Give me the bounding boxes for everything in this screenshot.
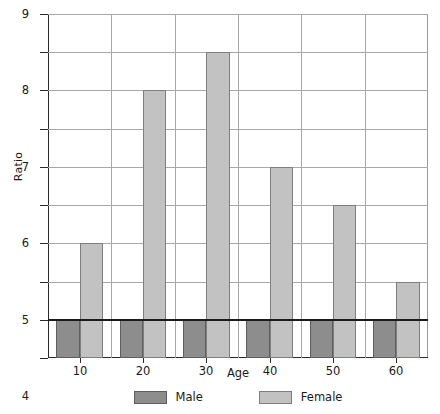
bar-female-age-30 [206, 52, 229, 358]
gridline-x-5 [365, 14, 366, 358]
reference-line-ratio-1 [48, 319, 428, 321]
y-tick-8: 8 [40, 52, 48, 53]
gridline-x-4 [301, 14, 302, 358]
bar-female-age-10 [80, 243, 103, 358]
y-tick-label-6: 6 [22, 236, 29, 250]
legend-swatch-female [259, 391, 292, 404]
bar-male-age-60 [373, 320, 396, 358]
y-tick-6: 6 [40, 129, 48, 130]
plot-right-border [427, 14, 428, 358]
x-tick-40 [270, 358, 271, 363]
bar-male-age-10 [56, 320, 79, 358]
y-tick-label-5: 5 [22, 313, 29, 327]
legend-label-female: Female [301, 390, 343, 404]
x-axis-title: Age [48, 366, 428, 380]
gridline-x-1 [111, 14, 112, 358]
x-tick-30 [206, 358, 207, 363]
y-tick-5: 5 [40, 167, 48, 168]
bar-male-age-40 [246, 320, 269, 358]
y-tick-1: 1 [40, 320, 48, 321]
y-tick-9: 9 [40, 14, 48, 15]
y-tick-3: 3 [40, 243, 48, 244]
y-tick-7: 7 [40, 90, 48, 91]
gridline-x-3 [238, 14, 239, 358]
x-tick-10 [80, 358, 81, 363]
gridline-x-2 [175, 14, 176, 358]
legend-item-male[interactable]: Male [134, 390, 203, 404]
y-tick-label-8: 8 [22, 83, 29, 97]
bar-male-age-20 [120, 320, 143, 358]
y-tick-label-4: 4 [22, 389, 29, 403]
chart-legend: MaleFemale [48, 390, 428, 404]
x-tick-20 [143, 358, 144, 363]
y-tick-label-9: 9 [22, 7, 29, 21]
y-axis-line [48, 14, 49, 358]
legend-label-male: Male [176, 390, 203, 404]
plot-area: 0123456789 102030405060 [48, 14, 428, 358]
x-tick-50 [333, 358, 334, 363]
bar-male-age-30 [183, 320, 206, 358]
bar-chart: Ratio 0123456789 102030405060 Age MaleFe… [0, 0, 440, 414]
y-tick-0: 0 [40, 358, 48, 359]
bar-male-age-50 [310, 320, 333, 358]
bar-female-age-40 [270, 167, 293, 358]
x-tick-60 [396, 358, 397, 363]
bar-female-age-50 [333, 205, 356, 358]
y-tick-4: 4 [40, 205, 48, 206]
y-tick-label-7: 7 [22, 160, 29, 174]
y-tick-2: 2 [40, 282, 48, 283]
legend-item-female[interactable]: Female [259, 390, 343, 404]
legend-swatch-male [134, 391, 167, 404]
